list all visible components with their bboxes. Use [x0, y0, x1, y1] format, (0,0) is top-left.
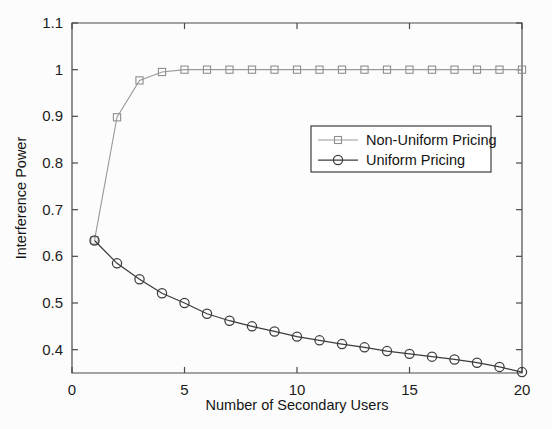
- y-tick-label: 1.1: [42, 14, 63, 31]
- y-tick-label: 0.7: [42, 201, 63, 218]
- chart-legend[interactable]: Non-Uniform Pricing Uniform Pricing: [311, 126, 497, 172]
- y-axis-title: Interference Power: [13, 137, 29, 260]
- chart-canvas: 0.40.50.60.70.80.911.1 05101520 Number o…: [0, 0, 552, 429]
- x-axis-title: Number of Secondary Users: [206, 397, 389, 413]
- y-tick-label: 1: [55, 61, 63, 78]
- x-tick-label: 0: [68, 381, 76, 398]
- x-tick-label: 20: [514, 381, 531, 398]
- y-tick-label: 0.6: [42, 247, 63, 264]
- x-tick-label: 15: [401, 381, 418, 398]
- y-tick-label: 0.5: [42, 294, 63, 311]
- chart-figure: 0.40.50.60.70.80.911.1 05101520 Number o…: [0, 0, 552, 429]
- x-tick-label: 5: [180, 381, 188, 398]
- y-tick-label: 0.9: [42, 107, 63, 124]
- legend-label-non-uniform: Non-Uniform Pricing: [366, 132, 497, 148]
- y-tick-label: 0.8: [42, 154, 63, 171]
- legend-label-uniform: Uniform Pricing: [366, 152, 465, 168]
- y-tick-label: 0.4: [42, 341, 63, 358]
- figure-background: [0, 0, 552, 429]
- x-tick-label: 10: [289, 381, 306, 398]
